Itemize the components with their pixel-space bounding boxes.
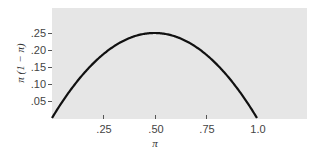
x-tick-mark <box>155 115 156 119</box>
y-tick-mark <box>48 84 52 85</box>
y-tick-label: .25 <box>31 28 46 39</box>
x-tick-label: 1.0 <box>250 124 265 135</box>
x-tick-mark <box>206 115 207 119</box>
x-tick-label: .75 <box>199 124 214 135</box>
y-tick-mark <box>48 101 52 102</box>
y-tick-mark <box>48 67 52 68</box>
y-axis-label: π (1 − π) <box>14 43 26 83</box>
y-tick-mark <box>48 50 52 51</box>
y-tick-label: .15 <box>31 62 46 73</box>
data-line <box>52 33 257 118</box>
y-tick-mark <box>48 33 52 34</box>
x-tick-mark <box>103 115 104 119</box>
x-axis-label: π <box>152 137 158 149</box>
y-tick-label: .05 <box>31 96 46 107</box>
x-tick-label: .50 <box>148 124 163 135</box>
y-tick-label: .20 <box>31 45 46 56</box>
y-tick-label: .10 <box>31 79 46 90</box>
x-tick-label: .25 <box>96 124 111 135</box>
